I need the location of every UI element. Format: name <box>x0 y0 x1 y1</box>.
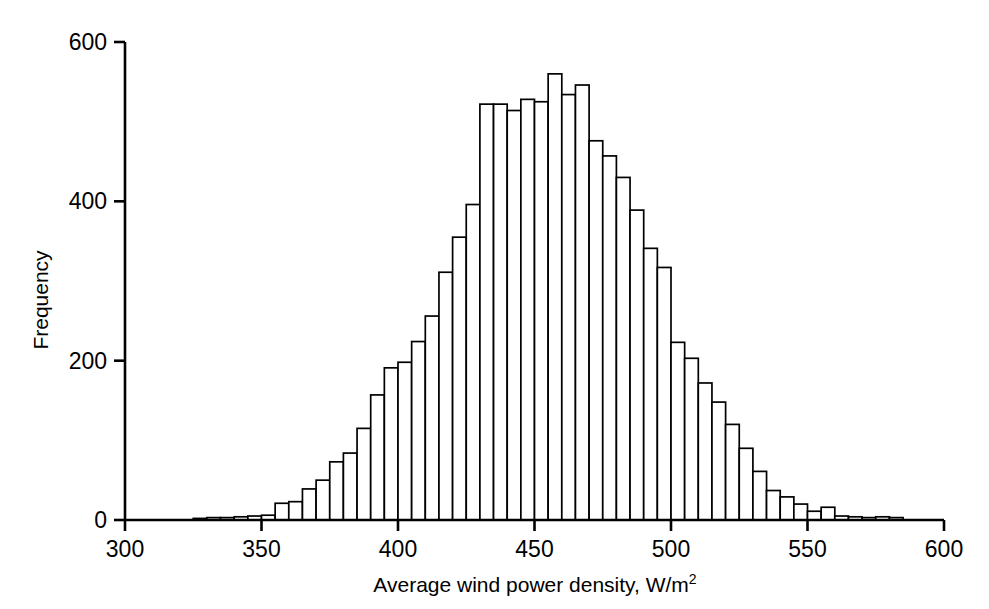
histogram-bar <box>589 141 603 520</box>
histogram-bar <box>330 462 344 520</box>
x-axis-title: Average wind power density, W/m2 <box>373 571 697 596</box>
histogram-bar <box>726 424 740 520</box>
y-axis-tick-label: 0 <box>94 507 107 533</box>
x-axis-tick-labels: 300350400450500550600 <box>106 536 963 562</box>
x-axis-tick-label: 450 <box>515 536 553 562</box>
y-axis-tick-label: 600 <box>69 29 107 55</box>
histogram-bar <box>343 453 357 520</box>
histogram-bar <box>453 237 467 520</box>
histogram-bar <box>371 395 385 520</box>
histogram-bar <box>302 489 316 520</box>
histogram-bar <box>425 316 439 520</box>
histogram-bar <box>753 471 767 520</box>
x-axis-tick-label: 550 <box>788 536 826 562</box>
y-axis-tick-label: 200 <box>69 348 107 374</box>
x-axis-title-text: Average wind power density, W/m <box>373 573 689 596</box>
histogram-bar <box>739 448 753 520</box>
histogram-bars <box>193 74 903 520</box>
histogram-bar <box>767 491 781 520</box>
histogram-bar <box>616 177 630 520</box>
y-axis-ticks <box>114 42 125 520</box>
y-axis-tick-labels: 0200400600 <box>69 29 107 533</box>
histogram-bar <box>630 210 644 520</box>
histogram-bar <box>275 503 289 520</box>
histogram-plot: 0200400600 300350400450500550600 Frequen… <box>0 0 989 609</box>
histogram-bar <box>562 95 576 520</box>
histogram-bar <box>289 502 303 520</box>
histogram-bar <box>412 342 426 520</box>
histogram-bar <box>466 205 480 520</box>
x-axis-tick-label: 600 <box>925 536 963 562</box>
x-axis-tick-label: 500 <box>652 536 690 562</box>
histogram-bar <box>671 342 685 520</box>
histogram-bar <box>644 248 658 520</box>
histogram-bar <box>698 383 712 520</box>
histogram-bar <box>535 102 549 520</box>
histogram-bar <box>398 362 412 520</box>
histogram-bar <box>657 267 671 520</box>
histogram-bar <box>808 511 822 520</box>
x-axis-tick-label: 300 <box>106 536 144 562</box>
histogram-bar <box>316 480 330 520</box>
histogram-bar <box>507 111 521 520</box>
x-axis-tick-label: 350 <box>242 536 280 562</box>
histogram-bar <box>712 402 726 520</box>
histogram-bar <box>494 104 508 520</box>
histogram-figure: 0200400600 300350400450500550600 Frequen… <box>0 0 989 609</box>
histogram-bar <box>384 368 398 520</box>
histogram-bar <box>794 504 808 520</box>
y-axis-title: Frequency <box>29 250 52 350</box>
histogram-bar <box>780 497 794 520</box>
histogram-bar <box>603 156 617 520</box>
histogram-bar <box>575 85 589 520</box>
y-axis-tick-label: 400 <box>69 188 107 214</box>
histogram-bar <box>548 74 562 520</box>
x-axis-ticks <box>125 520 944 531</box>
histogram-bar <box>439 272 453 520</box>
histogram-bar <box>521 99 535 520</box>
x-axis-title-superscript: 2 <box>689 571 697 587</box>
histogram-bar <box>685 358 699 520</box>
histogram-bar <box>480 104 494 520</box>
histogram-bar <box>821 507 835 520</box>
x-axis-tick-label: 400 <box>379 536 417 562</box>
histogram-bar <box>357 428 371 520</box>
